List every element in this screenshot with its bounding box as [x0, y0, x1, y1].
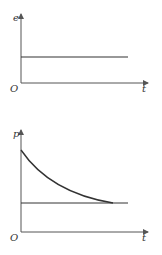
top-chart: e O t: [10, 12, 148, 94]
bottom-decay-curve: [21, 150, 113, 203]
bottom-y-label: p: [13, 128, 20, 139]
bottom-chart: p O t: [10, 128, 148, 243]
bottom-origin-label: O: [10, 232, 18, 243]
top-x-label: t: [142, 83, 147, 94]
top-origin-label: O: [10, 83, 18, 94]
top-y-label: e: [13, 12, 19, 23]
figure: e O t p O t: [0, 0, 162, 255]
bottom-x-label: t: [142, 232, 147, 243]
